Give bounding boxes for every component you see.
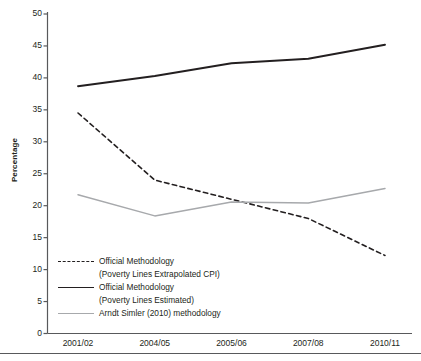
y-tick-label: 45 [18,40,42,50]
x-tick-label: 2005/06 [202,338,262,348]
legend-item-official-extrapolated-sub: (Poverty Lines Extrapolated CPI) [58,269,288,282]
x-tick-label: 2004/05 [125,338,185,348]
x-tick-label: 2007/08 [278,338,338,348]
series-line-0 [78,113,385,256]
y-tick-label: 10 [18,264,42,274]
y-tick-label: 30 [18,136,42,146]
legend-sublabel: (Poverty Lines Extrapolated CPI) [99,269,220,281]
legend-label: Official Methodology [99,282,174,294]
y-tick-label: 5 [18,296,42,306]
y-tick-label: 0 [18,328,42,338]
x-tick-label: 2001/02 [48,338,108,348]
legend-sublabel: (Poverty Lines Estimated) [99,295,194,307]
y-tick-label: 25 [18,168,42,178]
series-line-1 [78,45,385,86]
bottom-divider [0,353,421,354]
x-tick-label: 2010/11 [355,338,415,348]
y-tick-label: 50 [18,8,42,18]
legend-item-official-extrapolated: Official Methodology [58,256,288,269]
legend-item-arndt-simler: Arndt Simler (2010) methodology [58,308,288,321]
legend-spacer [58,295,94,307]
chart-legend: Official Methodology (Poverty Lines Extr… [58,256,288,321]
data-series-layer [78,45,385,256]
poverty-methodology-line-chart: Percentage 05101520253035404550 2001/022… [0,0,421,361]
legend-label: Official Methodology [99,256,174,268]
y-tick-label: 15 [18,232,42,242]
y-tick-label: 20 [18,200,42,210]
legend-item-official-estimated-sub: (Poverty Lines Estimated) [58,295,288,308]
legend-label: Arndt Simler (2010) methodology [99,308,221,320]
legend-item-official-estimated: Official Methodology [58,282,288,295]
legend-spacer [58,269,94,281]
dashed-line-swatch [58,256,94,268]
y-tick-label: 35 [18,104,42,114]
solid-line-swatch [58,282,94,294]
y-tick-label: 40 [18,72,42,82]
series-line-2 [78,188,385,216]
gray-line-swatch [58,308,94,320]
